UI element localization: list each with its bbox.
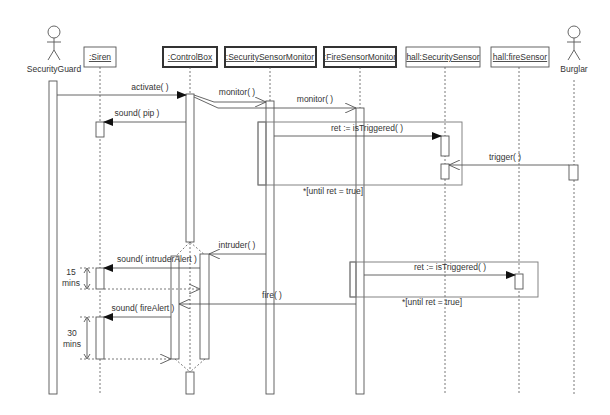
activation-bar (96, 317, 104, 359)
object-label: hall:SecuritySensor (406, 52, 479, 62)
duration-constraint-30: 30 mins (63, 317, 96, 359)
actor-label: Burglar (560, 64, 588, 74)
activation-bar (186, 372, 194, 394)
object-hall-security-sensor: hall:SecuritySensor (406, 47, 480, 395)
svg-text:sound( fireAlert ): sound( fireAlert ) (112, 303, 175, 313)
activation-bar (96, 268, 104, 289)
object-label: :SecuritySensorMonitor (226, 52, 315, 62)
activation-bar (569, 165, 578, 180)
message-activate: activate( ) (57, 82, 186, 95)
activation-bar-fire-thread (200, 254, 209, 359)
message-sound-pip: sound( pip ) (104, 108, 186, 122)
svg-text:monitor( ): monitor( ) (297, 94, 334, 104)
object-hall-fire-sensor: hall:fireSensor (491, 47, 549, 395)
svg-text:sound( pip ): sound( pip ) (115, 108, 160, 118)
svg-text:30: 30 (67, 328, 77, 338)
activation-bar (96, 122, 104, 137)
object-controlbox: :ControlBox (163, 47, 217, 395)
svg-text:trigger( ): trigger( ) (489, 152, 521, 162)
message-monitor-security: monitor( ) (194, 87, 266, 102)
stick-figure-icon (567, 26, 581, 60)
object-fire-sensor-monitor: :FireSensorMonitor (324, 47, 396, 395)
svg-text:monitor( ): monitor( ) (219, 87, 256, 97)
message-intruder: intruder( ) (209, 240, 266, 254)
activation-bar (266, 101, 274, 394)
activation-bar (49, 81, 57, 394)
svg-text:mins: mins (63, 339, 81, 349)
activation-bar (186, 94, 194, 242)
activation-bar (356, 108, 364, 394)
message-sound-fire: sound( fireAlert ) (104, 303, 175, 317)
svg-text:ret := isTriggered( ): ret := isTriggered( ) (414, 262, 486, 272)
activation-bar (441, 164, 449, 179)
svg-text:ret := isTriggered( ): ret := isTriggered( ) (331, 123, 403, 133)
svg-text:mins: mins (62, 278, 80, 288)
object-siren: :Siren (84, 47, 116, 395)
object-label: :Siren (89, 52, 111, 62)
svg-text:activate( ): activate( ) (131, 82, 168, 92)
svg-text:sound( intruderAlert ): sound( intruderAlert ) (117, 254, 197, 264)
message-sound-intruder: sound( intruderAlert ) (104, 254, 200, 268)
svg-text:*[until ret = true]: *[until ret = true] (303, 186, 363, 196)
svg-text:15: 15 (66, 267, 76, 277)
svg-text:intruder( ): intruder( ) (219, 240, 256, 250)
actor-burglar: Burglar (560, 26, 588, 395)
sequence-diagram: SecurityGuard Burglar :Siren :ControlBox (0, 0, 610, 415)
object-label: hall:fireSensor (493, 52, 548, 62)
message-trigger: trigger( ) (449, 152, 569, 165)
activation-bar (441, 136, 449, 156)
activation-bar (515, 274, 523, 289)
object-label: :FireSensorMonitor (324, 52, 396, 62)
svg-text:*[until ret = true]: *[until ret = true] (402, 297, 462, 307)
stick-figure-icon (47, 26, 61, 60)
svg-text:fire( ): fire( ) (262, 290, 282, 300)
message-is-triggered-fire: ret := isTriggered( ) (364, 262, 515, 275)
object-label: :ControlBox (168, 52, 213, 62)
duration-constraint-15: 15 mins (62, 267, 96, 289)
actor-label: SecurityGuard (27, 64, 82, 74)
